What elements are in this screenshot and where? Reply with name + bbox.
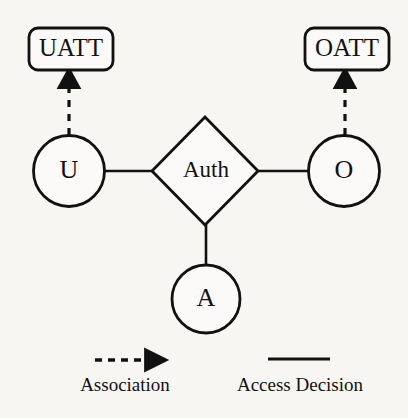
legend-association-label: Association xyxy=(80,374,170,395)
node-action-label: A xyxy=(197,283,216,312)
node-user-label: U xyxy=(60,155,79,184)
diagram-canvas: UATT OATT U O Auth A Association Access … xyxy=(0,0,408,418)
node-auth-label: Auth xyxy=(183,157,230,182)
node-uatt-label: UATT xyxy=(39,34,103,61)
legend-access-decision-label: Access Decision xyxy=(237,374,364,395)
node-object-label: O xyxy=(335,155,354,184)
diagram-svg: UATT OATT U O Auth A Association Access … xyxy=(0,0,408,418)
node-oatt-label: OATT xyxy=(315,34,379,61)
